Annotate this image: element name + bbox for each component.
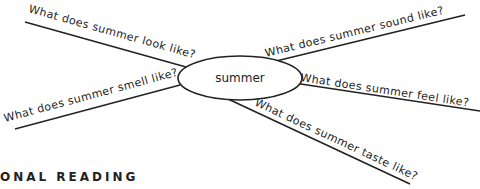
section-heading: ONAL READING xyxy=(0,170,138,184)
center-label: summer xyxy=(215,71,265,85)
branch-line-taste xyxy=(228,99,410,184)
branch-label-smell: What does summer smell like? xyxy=(2,66,179,125)
branch-label-sound: What does summer sound like? xyxy=(264,4,446,60)
branch-label-feel: What does summer feel like? xyxy=(300,71,471,109)
summer-web-diagram: summer What does summer look like? What … xyxy=(0,0,480,189)
branch-label-look: What does summer look like? xyxy=(27,2,197,61)
branch-label-taste: What does summer taste like? xyxy=(253,96,420,183)
